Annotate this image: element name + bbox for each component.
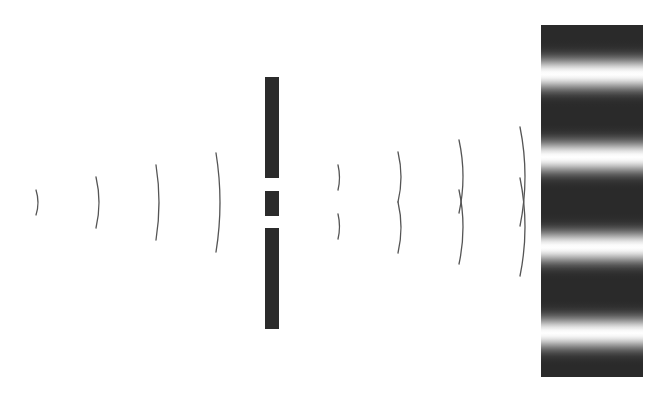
fringe-pattern [541, 25, 643, 377]
lower-slit-wavefront [398, 202, 401, 253]
incident-wavefronts [36, 153, 220, 252]
incident-wavefront [156, 165, 159, 240]
double-slit-diagram: Double-slit interference [0, 0, 671, 397]
barrier-segment-top [265, 77, 279, 178]
barrier-segment-bottom [265, 228, 279, 329]
lower-slit-wavefront [338, 214, 340, 239]
barrier-segment-middle [265, 191, 279, 216]
diagram-canvas [0, 0, 671, 397]
upper-slit-wavefront [338, 165, 340, 190]
lower-slit-wavefront [459, 190, 463, 264]
incident-wavefront [216, 153, 220, 252]
incident-wavefront [36, 190, 38, 215]
interference-screen [541, 25, 643, 377]
double-slit-barrier [265, 77, 279, 329]
diffracted-wavefronts [338, 127, 525, 276]
incident-wavefront [96, 177, 99, 228]
upper-slit-wavefront [398, 152, 401, 202]
